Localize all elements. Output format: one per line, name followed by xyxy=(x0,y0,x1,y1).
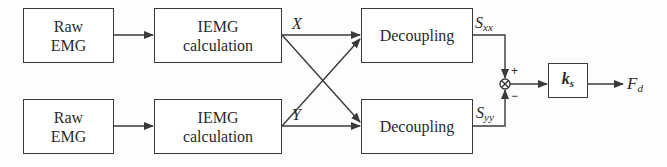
decoupling-bottom-label: Decoupling xyxy=(380,117,455,136)
signal-x-label: X xyxy=(292,15,302,33)
iemg-top-line1: IEMG xyxy=(198,17,239,36)
plus-sign: + xyxy=(511,64,518,78)
iemg-calculation-box-bottom: IEMG calculation xyxy=(154,99,282,154)
iemg-bottom-line2: calculation xyxy=(183,127,253,146)
gain-ks-label: ks xyxy=(562,69,574,93)
decoupling-top-label: Decoupling xyxy=(380,26,455,45)
raw-emg-box-bottom: Raw EMG xyxy=(23,99,114,154)
arrow-sxx-to-sum xyxy=(473,35,505,78)
raw-emg-bottom-line1: Raw xyxy=(54,108,83,127)
decoupling-box-bottom: Decoupling xyxy=(361,99,473,154)
raw-emg-top-line1: Raw xyxy=(54,17,83,36)
raw-emg-bottom-line2: EMG xyxy=(51,127,87,146)
decoupling-box-top: Decoupling xyxy=(361,8,473,63)
raw-emg-top-line2: EMG xyxy=(51,36,87,55)
output-fd-label: Fd xyxy=(627,74,643,94)
gain-ks-box: ks xyxy=(548,63,588,98)
signal-sxx-label: Sxx xyxy=(475,14,493,33)
raw-emg-box-top: Raw EMG xyxy=(23,8,114,63)
emg-decoupling-block-diagram: Raw EMG IEMG calculation Decoupling X Sx… xyxy=(0,0,667,167)
iemg-calculation-box-top: IEMG calculation xyxy=(154,8,282,63)
iemg-bottom-line1: IEMG xyxy=(198,108,239,127)
iemg-top-line2: calculation xyxy=(183,36,253,55)
signal-y-label: Y xyxy=(292,106,301,124)
signal-syy-label: Syy xyxy=(476,104,494,123)
minus-sign: − xyxy=(511,89,518,103)
